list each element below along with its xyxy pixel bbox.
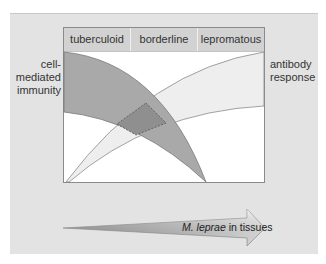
cmi-label: cell- mediated immunity	[16, 58, 61, 97]
cmi-label-line2: mediated	[16, 71, 61, 84]
header-borderline: borderline	[131, 28, 198, 51]
cmi-label-line1: cell-	[16, 58, 61, 71]
spectrum-header: tuberculoid borderline lepromatous	[63, 27, 265, 51]
antibody-label: antibody response	[270, 58, 315, 84]
arrow-label: M. leprae in tissues	[182, 221, 272, 233]
antibody-label-line2: response	[270, 71, 315, 84]
arrow-label-species: M. leprae	[182, 221, 226, 233]
arrow-label-rest: in tissues	[226, 221, 273, 233]
header-lepromatous: lepromatous	[198, 28, 264, 51]
cmi-label-line3: immunity	[16, 84, 61, 97]
antibody-label-line1: antibody	[270, 58, 315, 71]
header-tuberculoid: tuberculoid	[64, 28, 131, 51]
